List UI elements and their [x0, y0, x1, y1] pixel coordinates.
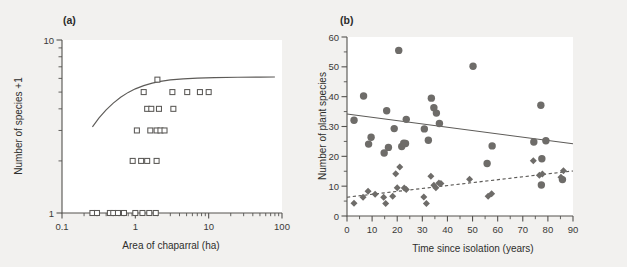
data-point-marker — [385, 144, 392, 151]
panel-a-xtick-label: 10 — [203, 221, 214, 232]
panel-a-xaxis-title: Area of chaparral (ha) — [122, 240, 219, 251]
data-point-marker — [391, 125, 398, 132]
data-point-marker — [115, 211, 120, 216]
panel-b-xtick-label: 50 — [467, 224, 478, 235]
panel-a-plot-background — [62, 40, 282, 213]
panel-b-xaxis-title: Time since isolation (years) — [412, 243, 533, 254]
panel-b-xtick-label: 20 — [392, 224, 403, 235]
data-point-marker — [141, 90, 146, 95]
panel-a-xtick-label: 0.1 — [55, 221, 68, 232]
panel-b-xtick-label: 0 — [344, 224, 349, 235]
panel-b-ytick-label: 30 — [328, 121, 339, 132]
data-point-marker — [121, 211, 126, 216]
panel-b-ytick-label: 10 — [328, 181, 339, 192]
panel-b: (b) 01020304050600102030405060708090 Tim… — [313, 0, 627, 267]
panel-b-ytick-label: 40 — [328, 91, 339, 102]
data-point-marker — [433, 109, 440, 116]
data-point-marker — [530, 138, 537, 145]
data-point-marker — [133, 211, 138, 216]
panel-b-xtick-label: 30 — [417, 224, 428, 235]
data-point-marker — [428, 94, 435, 101]
data-point-marker — [155, 77, 160, 82]
data-point-marker — [130, 158, 135, 163]
data-point-marker — [134, 128, 139, 133]
panel-b-xtick-label: 60 — [492, 224, 503, 235]
panel-b-ytick-label: 0 — [334, 211, 339, 222]
data-point-marker — [154, 158, 159, 163]
panel-a: (a) 1100.1110100 Area of chaparral (ha) … — [0, 0, 314, 267]
data-point-marker — [149, 106, 154, 111]
data-point-marker — [140, 211, 145, 216]
data-point-marker — [139, 158, 144, 163]
panel-a-plot: (a) 1100.1110100 Area of chaparral (ha) … — [0, 0, 314, 267]
data-point-marker — [537, 102, 544, 109]
data-point-marker — [425, 137, 432, 144]
panel-a-yaxis-title: Number of species +1 — [13, 77, 24, 175]
data-point-marker — [94, 211, 99, 216]
panel-b-xtick-label: 80 — [543, 224, 554, 235]
data-point-marker — [360, 92, 367, 99]
data-point-marker — [538, 155, 545, 162]
panel-b-plot: (b) 01020304050600102030405060708090 Tim… — [313, 0, 627, 267]
panel-a-plot-area: 1100.1110100 — [43, 35, 290, 233]
data-point-marker — [162, 128, 167, 133]
figure-container: (a) 1100.1110100 Area of chaparral (ha) … — [0, 0, 627, 267]
data-point-marker — [148, 128, 153, 133]
data-point-marker — [436, 120, 443, 127]
data-point-marker — [402, 140, 409, 147]
data-point-marker — [147, 211, 152, 216]
panel-a-label: (a) — [63, 14, 76, 26]
data-point-marker — [197, 90, 202, 95]
panel-b-xtick-label: 40 — [442, 224, 453, 235]
data-point-marker — [153, 211, 158, 216]
data-point-marker — [145, 158, 150, 163]
panel-a-ytick-label: 1 — [49, 208, 54, 219]
data-point-marker — [206, 90, 211, 95]
data-point-marker — [185, 90, 190, 95]
panel-b-yaxis-title: Number of plant species — [317, 72, 328, 180]
data-point-marker — [171, 106, 176, 111]
data-point-marker — [403, 116, 410, 123]
panel-b-xtick-label: 10 — [367, 224, 378, 235]
data-point-marker — [542, 137, 549, 144]
panel-b-xtick-label: 70 — [517, 224, 528, 235]
data-point-marker — [365, 140, 372, 147]
panel-b-plot-background — [347, 37, 573, 216]
data-point-marker — [421, 125, 428, 132]
data-point-marker — [156, 106, 161, 111]
data-point-marker — [170, 90, 175, 95]
data-point-marker — [538, 181, 545, 188]
panel-b-plot-area: 01020304050600102030405060708090 — [328, 32, 578, 236]
panel-b-label: (b) — [340, 14, 353, 26]
data-point-marker — [483, 160, 490, 167]
panel-a-ytick-label: 10 — [43, 35, 54, 46]
data-point-marker — [367, 134, 374, 141]
data-point-marker — [395, 47, 402, 54]
panel-b-xtick-label: 90 — [568, 224, 579, 235]
panel-b-ytick-label: 50 — [328, 61, 339, 72]
data-point-marker — [383, 107, 390, 114]
panel-b-ytick-label: 60 — [328, 32, 339, 43]
panel-a-xtick-label: 1 — [133, 221, 138, 232]
panel-a-xtick-label: 100 — [274, 221, 290, 232]
panel-b-ytick-label: 20 — [328, 151, 339, 162]
data-point-marker — [469, 63, 476, 70]
data-point-marker — [488, 142, 495, 149]
data-point-marker — [350, 117, 357, 124]
